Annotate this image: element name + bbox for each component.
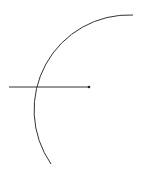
diagram-svg — [0, 0, 145, 178]
circle-arc — [34, 15, 133, 164]
diagram-canvas — [0, 0, 145, 178]
endpoint-dot — [88, 86, 91, 89]
